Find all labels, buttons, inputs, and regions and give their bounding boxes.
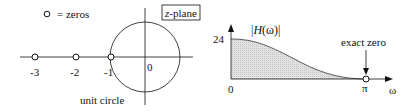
zero-marker-icon <box>32 54 38 60</box>
z-plane-panel: = zeros z-plane -3 -2 -1 0 unit circle <box>20 5 200 106</box>
zero-label: -2 <box>70 66 79 78</box>
y-tick-label: 24 <box>213 33 225 45</box>
origin-label: 0 <box>147 61 153 73</box>
arrow-down-icon <box>363 68 369 75</box>
unit-circle-label: unit circle <box>80 94 124 106</box>
zero-legend-icon <box>44 11 50 17</box>
zero-marker-icon <box>73 54 79 60</box>
diagram: = zeros z-plane -3 -2 -1 0 unit circle |… <box>0 0 416 112</box>
axis-arrow-icon <box>385 76 393 82</box>
magnitude-response-panel: |H(ω)| 24 0 π ω exact zero <box>213 23 396 96</box>
x-start-label: 0 <box>228 83 234 95</box>
magnitude-label: |H(ω)| <box>251 23 280 37</box>
zero-label: -3 <box>30 66 40 78</box>
omega-label: ω <box>389 84 396 96</box>
x-end-label: π <box>362 82 368 94</box>
axis-arrow-icon <box>228 24 234 32</box>
exact-zero-marker-icon <box>363 76 369 82</box>
zero-label: -1 <box>104 66 113 78</box>
exact-zero-annotation: exact zero <box>341 36 386 48</box>
legend-label: = zeros <box>57 8 89 20</box>
zero-marker-icon <box>108 54 114 60</box>
z-plane-label: z-plane <box>164 7 197 19</box>
